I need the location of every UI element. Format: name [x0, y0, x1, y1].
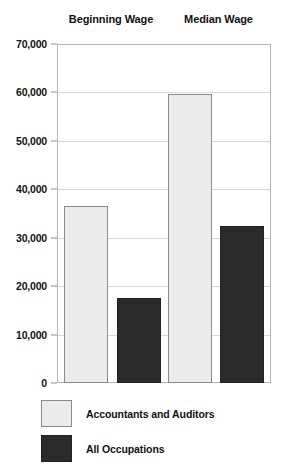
y-tick-label-0: 0 — [41, 377, 47, 389]
legend-label-all-occupations: All Occupations — [86, 443, 164, 455]
group-header-beginning-wage: Beginning Wage — [57, 13, 165, 25]
y-tick-label-20000: 20,000 — [16, 280, 47, 292]
group-header-median-wage: Median Wage — [165, 13, 272, 25]
legend-label-accountants-and-auditors: Accountants and Auditors — [86, 408, 214, 420]
y-axis: 70,000 60,000 50,000 40,000 30,000 20,00… — [0, 44, 57, 383]
bar-median-wage-all-occupations[interactable] — [220, 226, 264, 383]
y-tick-label-60000: 60,000 — [16, 86, 47, 98]
y-tick-label-50000: 50,000 — [16, 135, 47, 147]
legend-swatch-icon-all-occupations — [41, 435, 72, 462]
group-header-row: Beginning Wage Median Wage — [57, 13, 272, 31]
y-tick-label-70000: 70,000 — [16, 38, 47, 50]
bar-median-wage-accountants-and-auditors[interactable] — [168, 94, 212, 383]
bars-layer — [57, 44, 271, 383]
legend: Accountants and Auditors All Occupations — [0, 398, 286, 468]
y-tick-label-40000: 40,000 — [16, 183, 47, 195]
legend-swatch-icon-accountants-and-auditors — [41, 400, 72, 427]
y-tick-label-10000: 10,000 — [16, 329, 47, 341]
bar-beginning-wage-all-occupations[interactable] — [117, 298, 161, 383]
bar-beginning-wage-accountants-and-auditors[interactable] — [64, 206, 108, 383]
bar-chart: Beginning Wage Median Wage 70,000 60,000… — [0, 0, 286, 476]
y-tick-label-30000: 30,000 — [16, 232, 47, 244]
